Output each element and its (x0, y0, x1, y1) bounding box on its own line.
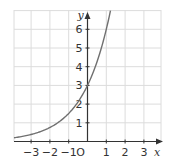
x-tick-label: −2 (42, 146, 58, 159)
y-tick-label: 3 (76, 79, 83, 92)
x-tick-label: 1 (103, 146, 110, 159)
y-axis-label: y (77, 9, 85, 22)
axes (14, 12, 163, 145)
y-tick-label: 5 (76, 42, 83, 55)
x-tick-label: −3 (23, 146, 39, 159)
y-tick-label: 1 (76, 117, 83, 130)
origin-label: O (76, 146, 85, 159)
exponential-graph: −3−2−1123123456 x y O (0, 0, 173, 163)
y-tick-label: 4 (76, 61, 83, 74)
x-axis-arrow-icon (156, 139, 163, 145)
x-tick-label: 3 (140, 146, 147, 159)
x-axis-label: x (154, 146, 161, 159)
x-tick-label: 2 (122, 146, 129, 159)
y-axis-arrow-icon (85, 12, 91, 19)
x-tick-label: −1 (61, 146, 77, 159)
y-tick-label: 6 (76, 23, 83, 36)
